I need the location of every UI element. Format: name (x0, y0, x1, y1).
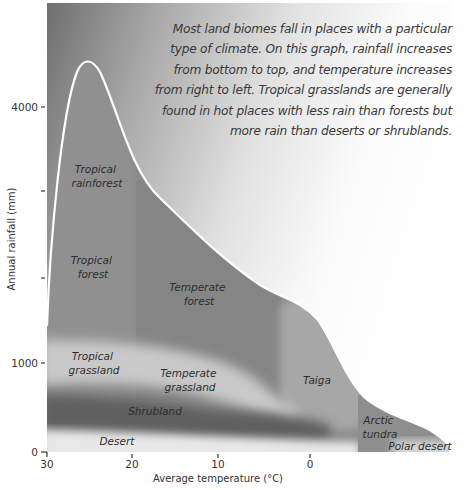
label-desert: Desert (100, 435, 136, 447)
y-tick-1000: 1000 (11, 357, 38, 369)
x-tick-30: 30 (40, 458, 53, 470)
label-shrubland: Shrubland (128, 405, 182, 417)
x-tick-10: 10 (211, 458, 224, 470)
y-axis-title: Annual rainfall (mm) (6, 187, 17, 290)
x-axis-title: Average temperature (°C) (153, 473, 283, 484)
y-tick-0: 0 (31, 446, 38, 458)
label-polar-desert: Polar desert (388, 440, 452, 452)
y-tick-4000: 4000 (11, 101, 38, 113)
chart-caption: Most land biomes fall in places with a p… (148, 19, 452, 141)
label-taiga: Taiga (303, 374, 331, 386)
x-tick-0: 0 (307, 458, 314, 470)
x-tick-20: 20 (125, 458, 138, 470)
